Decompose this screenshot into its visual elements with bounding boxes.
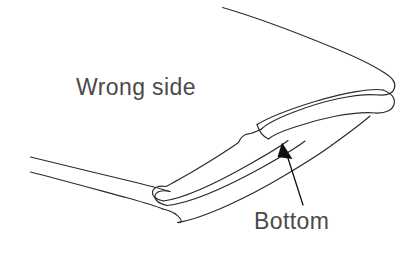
label-wrong-side: Wrong side — [76, 74, 196, 101]
lower-panel-left-tip — [155, 191, 170, 206]
upper-panel-top-edge — [223, 8, 385, 73]
bottom-leader-arrow — [278, 143, 304, 206]
notch-vertical-step — [239, 134, 249, 143]
lower-fold-tube — [152, 141, 288, 202]
lower-tube-top-edge — [166, 143, 239, 187]
upper-tube-left-cap — [257, 125, 269, 140]
upper-panel-outline — [223, 8, 395, 130]
lower-panel-top-edge — [31, 157, 171, 192]
upper-tube-bottom-edge — [269, 113, 377, 139]
illustration-canvas: Wrong side Bottom — [0, 0, 418, 256]
bottom-leader-line — [287, 154, 304, 206]
lower-panel-outline — [31, 141, 306, 206]
bottom-band-right-edge — [332, 116, 370, 145]
upper-tube-tip — [376, 90, 394, 113]
center-step-notch — [239, 129, 262, 143]
upper-fold-tube — [257, 90, 394, 139]
lower-tube-bottom-edge — [164, 141, 289, 202]
bottom-band-left-tip — [163, 209, 181, 223]
fabric-line-drawing — [0, 0, 418, 256]
label-bottom: Bottom — [254, 208, 329, 235]
bottom-band-upper-edge — [31, 172, 164, 209]
